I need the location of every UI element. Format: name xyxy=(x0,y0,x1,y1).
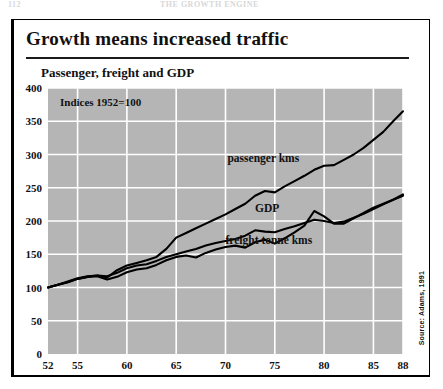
y-axis-tick-label: 50 xyxy=(31,315,43,327)
y-axis-tick-label: 150 xyxy=(26,248,43,260)
line-chart: 0501001502002503003504005255606570758085… xyxy=(14,20,433,378)
series-label-freight-tonne-kms: freight tonne kms xyxy=(226,234,313,247)
chart-plot-area: 0501001502002503003504005255606570758085… xyxy=(14,20,433,378)
y-axis-tick-label: 350 xyxy=(26,115,43,127)
x-axis-tick-label: 70 xyxy=(220,359,232,371)
running-title: THE GROWTH ENGINE xyxy=(160,0,259,9)
page-running-header: 112 THE GROWTH ENGINE xyxy=(0,0,443,14)
y-axis-tick-label: 100 xyxy=(26,282,43,294)
series-label-passenger-kms: passenger kms xyxy=(227,152,299,165)
x-axis-tick-label: 55 xyxy=(72,359,84,371)
x-axis-tick-label: 85 xyxy=(368,359,380,371)
figure-frame: Growth means increased traffic Passenger… xyxy=(11,19,430,377)
x-axis-tick-label: 52 xyxy=(43,359,55,371)
y-axis-tick-label: 200 xyxy=(26,215,43,227)
x-axis-tick-label: 60 xyxy=(121,359,133,371)
x-axis-tick-label: 80 xyxy=(319,359,331,371)
y-axis-tick-label: 400 xyxy=(26,82,43,94)
x-axis-tick-label: 88 xyxy=(398,359,410,371)
source-note: Source: Adams, 1991 xyxy=(418,271,425,345)
page-folio: 112 xyxy=(8,0,21,9)
y-axis-tick-label: 250 xyxy=(26,182,43,194)
x-axis-tick-label: 75 xyxy=(269,359,281,371)
series-label-gdp: GDP xyxy=(255,202,279,214)
y-axis-tick-label: 300 xyxy=(26,149,43,161)
x-axis-tick-label: 65 xyxy=(171,359,183,371)
chart-annotation-indices: Indices 1952=100 xyxy=(60,96,142,108)
